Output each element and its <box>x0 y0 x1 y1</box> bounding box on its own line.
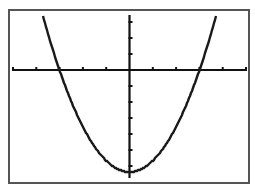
graph-canvas <box>0 0 255 189</box>
y-axis <box>129 15 133 178</box>
